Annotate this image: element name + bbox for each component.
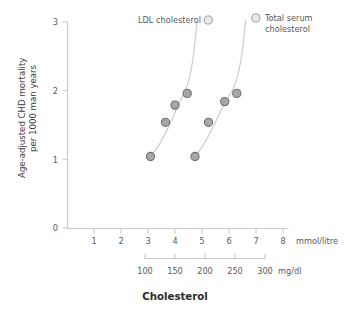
x-tick-label-mgdl-150: 150 bbox=[167, 266, 183, 276]
x-tick-label-mmol-8: 8 bbox=[280, 236, 285, 246]
data-point-ldl-2 bbox=[161, 118, 169, 126]
series-label-total-line2: cholesterol bbox=[265, 24, 310, 34]
x-tick-label-mmol-4: 4 bbox=[172, 236, 177, 246]
x-tick-label-mgdl-200: 200 bbox=[197, 266, 213, 276]
chart-title: Cholesterol bbox=[142, 291, 208, 302]
series-label-total-line1: Total serum bbox=[264, 13, 313, 23]
x-tick-label-mmol-2: 2 bbox=[118, 236, 123, 246]
data-point-ldl-3 bbox=[171, 101, 179, 109]
x-tick-label-mmol-3: 3 bbox=[145, 236, 150, 246]
y-axis-title-line2: per 1000 man years bbox=[28, 64, 38, 152]
x-tick-label-mmol-7: 7 bbox=[253, 236, 258, 246]
x-tick-label-mgdl-100: 100 bbox=[137, 266, 153, 276]
chart-figure: 3 2 1 0 Age-adjusted CHD mortality per 1… bbox=[0, 0, 349, 314]
data-point-total-1 bbox=[191, 152, 199, 160]
series-label-ldl: LDL cholesterol bbox=[138, 15, 201, 25]
y-tick-label-2: 2 bbox=[53, 86, 58, 96]
x-tick-label-mgdl-300: 300 bbox=[257, 266, 273, 276]
data-point-ldl-5 bbox=[204, 16, 212, 24]
data-point-ldl-1 bbox=[146, 152, 154, 160]
x-tick-label-mmol-1: 1 bbox=[91, 236, 96, 246]
data-point-total-2 bbox=[204, 118, 212, 126]
x-tick-label-mgdl-250: 250 bbox=[227, 266, 243, 276]
cholesterol-chd-mortality-chart: 3 2 1 0 Age-adjusted CHD mortality per 1… bbox=[0, 0, 349, 314]
data-point-total-3 bbox=[221, 98, 229, 106]
x-tick-label-mmol-5: 5 bbox=[199, 236, 204, 246]
data-point-total-5 bbox=[252, 14, 260, 22]
y-tick-label-1: 1 bbox=[53, 155, 58, 165]
y-axis-title-line1: Age-adjusted CHD mortality bbox=[17, 58, 27, 178]
x-axis-unit-mmol: mmol/litre bbox=[296, 236, 338, 246]
x-tick-label-mmol-6: 6 bbox=[226, 236, 231, 246]
data-point-total-4 bbox=[233, 89, 241, 97]
data-point-ldl-4 bbox=[183, 89, 191, 97]
x-axis-unit-mgdl: mg/dl bbox=[278, 266, 301, 276]
y-tick-label-0: 0 bbox=[53, 223, 58, 233]
y-tick-label-3: 3 bbox=[53, 17, 58, 27]
